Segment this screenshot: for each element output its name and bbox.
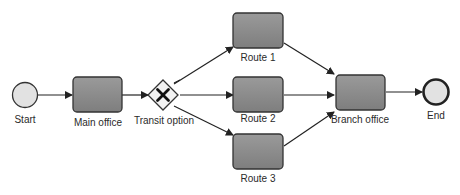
start-event[interactable]: Start <box>13 83 38 126</box>
transit-option-label: Transit option <box>134 115 194 126</box>
route-2-label: Route 2 <box>240 113 275 124</box>
start-label: Start <box>14 114 35 125</box>
task-route-1[interactable]: Route 1 <box>233 13 283 63</box>
main-office-label: Main office <box>74 117 123 128</box>
exclusive-gateway[interactable]: Transit option <box>134 80 194 126</box>
route-1-label: Route 1 <box>240 52 275 63</box>
flow-gateway-route1 <box>174 47 233 84</box>
task-branch-office[interactable]: Branch office <box>331 75 390 125</box>
flow-route1-branch <box>284 43 334 74</box>
process-diagram: Start Main office Transit option Route 1… <box>0 0 460 195</box>
flow-route3-branch <box>284 112 334 146</box>
end-label: End <box>427 110 445 121</box>
task-route-3[interactable]: Route 3 <box>233 134 283 184</box>
task-main-office[interactable]: Main office <box>73 77 123 128</box>
task-route-2[interactable]: Route 2 <box>233 77 283 124</box>
branch-office-label: Branch office <box>331 114 390 125</box>
end-event[interactable]: End <box>424 80 449 122</box>
route-3-label: Route 3 <box>240 173 275 184</box>
